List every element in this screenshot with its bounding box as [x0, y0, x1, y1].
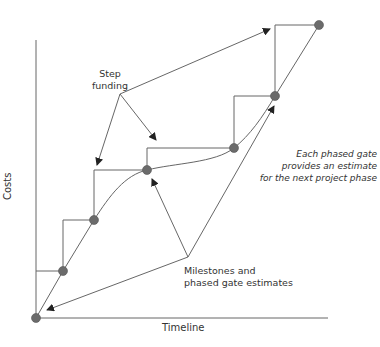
milestones-label: Milestones and phased gate estimates — [184, 265, 324, 289]
milestone-dot — [59, 267, 68, 276]
x-axis-label: Timeline — [162, 322, 205, 334]
milestone-dot — [315, 21, 324, 30]
milestones-line-2: phased gate estimates — [184, 277, 324, 289]
step-funding-arrow-1 — [97, 94, 120, 165]
step-funding-label: Step funding — [82, 68, 138, 92]
step-funding-line-1: Step — [82, 68, 138, 80]
step-funding-arrow-3 — [120, 29, 270, 94]
phased-gate-note-line-2: provides an estimate — [250, 160, 377, 172]
phased-gate-note-line-3: for the next project phase — [250, 172, 377, 184]
phased-gate-note-line-1: Each phased gate — [250, 148, 377, 160]
milestones-line-1: Milestones and — [184, 265, 324, 277]
milestone-dot — [32, 314, 41, 323]
milestone-dot — [143, 166, 152, 175]
milestone-arrow-1 — [47, 257, 188, 310]
milestone-dot — [230, 144, 239, 153]
milestone-dot — [90, 216, 99, 225]
step-funding-line-2: funding — [82, 80, 138, 92]
y-axis-label: Costs — [2, 173, 13, 200]
phased-gate-note: Each phased gate provides an estimate fo… — [250, 148, 377, 184]
milestone-arrow-2 — [152, 179, 188, 257]
step-funding-arrow-2 — [120, 94, 156, 140]
milestone-dot — [271, 92, 280, 101]
